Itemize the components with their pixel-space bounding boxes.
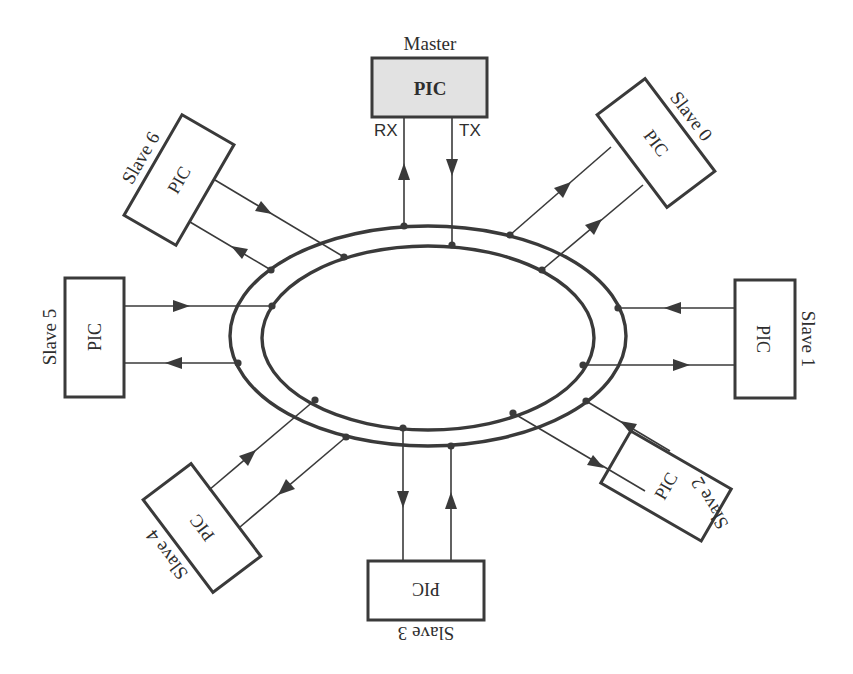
arrow-up-icon [445, 492, 457, 509]
master-node: Master PIC RX TX [372, 33, 487, 249]
junction-dot [342, 433, 349, 440]
junction-dot [582, 397, 589, 404]
arrow-icon [239, 450, 256, 466]
arrow-down-icon [446, 159, 458, 176]
arrow-right-icon [673, 359, 690, 371]
slave-1-chip-label: PIC [753, 325, 773, 353]
junction-dot [399, 424, 406, 431]
arrow-down-icon [397, 491, 409, 508]
junction-dot [448, 241, 455, 248]
arrow-right-icon [173, 300, 190, 312]
junction-dot [268, 302, 275, 309]
junction-dot [509, 409, 516, 416]
junction-dot [447, 442, 454, 449]
junction-dot [267, 266, 274, 273]
slave-0-node: PIC Slave 0 [506, 64, 734, 274]
slave-1-name: Slave 1 [798, 311, 819, 367]
junction-dot [340, 253, 347, 260]
master-rx-label: RX [374, 121, 398, 140]
slave-3-node: PIC Slave 3 [368, 424, 484, 644]
arrow-left-icon [664, 302, 681, 314]
ring-network-diagram: Master PIC RX TX PIC Slave 0 PIC Slave 1 [0, 0, 853, 674]
slave-5-chip-label: PIC [85, 323, 105, 351]
arrow-up-icon [398, 163, 410, 180]
junction-dot [614, 304, 621, 311]
slave-6-wire-in [215, 180, 344, 257]
slave-5-node: PIC Slave 5 [39, 278, 276, 397]
slave-3-name: Slave 3 [398, 623, 454, 644]
junction-dot [538, 266, 545, 273]
slave-5-name: Slave 5 [39, 309, 60, 365]
arrow-icon [255, 201, 272, 214]
junction-dot [506, 231, 513, 238]
junction-dot [579, 361, 586, 368]
arrow-icon [231, 246, 248, 259]
master-chip-label: PIC [414, 78, 447, 99]
arrow-icon [554, 182, 571, 198]
slave-2-node: PIC Slave 2 [509, 397, 732, 541]
master-tx-label: TX [459, 121, 481, 140]
junction-dot [234, 359, 241, 366]
slave-6-wire-out [190, 222, 271, 270]
junction-dot [400, 222, 407, 229]
slave-3-chip-label: PIC [412, 579, 440, 599]
master-title: Master [404, 33, 457, 54]
arrow-icon [587, 455, 604, 468]
arrow-icon [278, 479, 295, 495]
arrow-left-icon [165, 357, 182, 369]
junction-dot [311, 396, 318, 403]
outer-ring-bus [230, 226, 626, 446]
